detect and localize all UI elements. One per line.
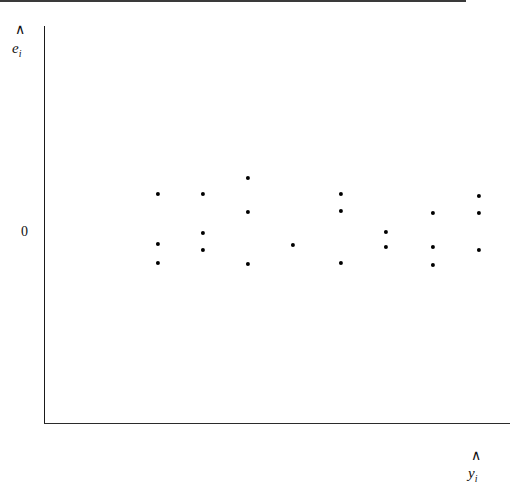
- x-axis-label-subscript: i: [475, 473, 478, 484]
- y-axis-label-subscript: i: [19, 48, 22, 59]
- scatter-point: [291, 243, 295, 247]
- scatter-point: [246, 210, 250, 214]
- scatter-point: [384, 230, 388, 234]
- scatter-point: [246, 176, 250, 180]
- scatter-point: [339, 261, 343, 265]
- scatter-point: [431, 263, 435, 267]
- y-axis-hat-icon: ∧: [15, 23, 25, 37]
- scatter-point: [339, 209, 343, 213]
- scatter-point: [477, 248, 481, 252]
- scatter-point: [246, 262, 250, 266]
- residual-plot-figure: ∧ ei ∧ yi 0: [0, 0, 530, 494]
- scatter-point: [201, 231, 205, 235]
- scatter-point: [477, 211, 481, 215]
- x-axis-label: yi: [468, 466, 477, 484]
- x-axis-hat-icon: ∧: [471, 449, 481, 463]
- scatter-point: [201, 248, 205, 252]
- y-axis-line: [44, 26, 45, 424]
- scatter-point: [477, 194, 481, 198]
- scatter-point: [384, 245, 388, 249]
- scatter-point: [339, 192, 343, 196]
- scatter-point: [431, 211, 435, 215]
- y-axis-label: ei: [12, 41, 21, 59]
- zero-reference-line: [0, 0, 466, 2]
- scatter-point: [431, 245, 435, 249]
- y-axis-label-glyph: e: [12, 40, 19, 56]
- scatter-point: [201, 192, 205, 196]
- x-axis-label-glyph: y: [468, 465, 475, 481]
- y-axis-tick-label-zero: 0: [21, 225, 28, 239]
- scatter-point: [156, 242, 160, 246]
- scatter-point: [156, 192, 160, 196]
- scatter-point: [156, 261, 160, 265]
- x-axis-line: [44, 423, 510, 424]
